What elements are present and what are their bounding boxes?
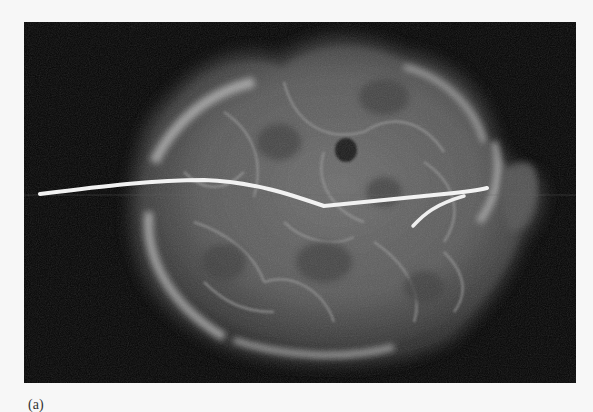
mass-illustration <box>24 22 576 383</box>
radiograph-image <box>24 22 576 383</box>
figure-caption-label: (a) <box>28 398 44 412</box>
